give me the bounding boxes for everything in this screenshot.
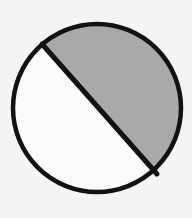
circle-segment-diagram <box>0 0 192 218</box>
figure-canvas <box>0 0 192 218</box>
